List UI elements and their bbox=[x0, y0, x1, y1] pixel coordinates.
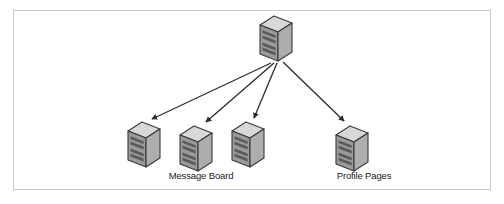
node-target-server-3[interactable] bbox=[232, 122, 264, 167]
node-target-server-4[interactable] bbox=[336, 126, 368, 171]
node-target-server-2[interactable] bbox=[180, 126, 212, 171]
edge-origin-to-target-4 bbox=[283, 62, 344, 121]
edge-origin-to-target-3 bbox=[254, 63, 277, 118]
label-profile-pages: Profile Pages bbox=[314, 170, 414, 181]
node-target-server-1[interactable] bbox=[128, 122, 160, 167]
edge-origin-to-target-1 bbox=[152, 63, 271, 119]
label-message-board: Message Board bbox=[146, 170, 256, 181]
edge-origin-to-target-2 bbox=[206, 63, 274, 122]
edge-group bbox=[152, 62, 344, 122]
node-origin-server[interactable] bbox=[260, 16, 292, 61]
topology-figure: Message Board Profile Pages bbox=[0, 0, 504, 204]
